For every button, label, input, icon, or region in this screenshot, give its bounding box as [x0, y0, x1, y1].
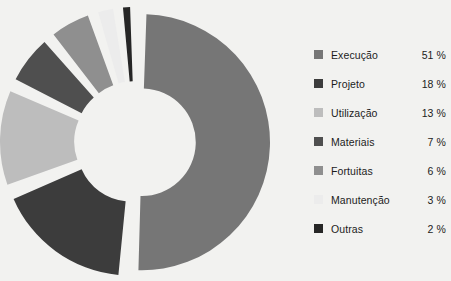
legend-item-label: Fortuitas — [331, 165, 412, 177]
legend-item-label: Utilização — [331, 107, 412, 119]
legend-item[interactable]: Execução51 % — [314, 40, 446, 69]
legend-item-value: 51 % — [412, 49, 446, 61]
legend-color-swatch — [314, 195, 323, 204]
legend-item[interactable]: Materiais7 % — [314, 127, 446, 156]
legend-item-value: 7 % — [412, 136, 446, 148]
legend-item-value: 13 % — [412, 107, 446, 119]
legend-color-swatch — [314, 79, 323, 88]
donut-chart-svg — [0, 0, 270, 281]
legend-item-label: Projeto — [331, 78, 412, 90]
legend-item-label: Outras — [331, 223, 412, 235]
donut-slice[interactable] — [123, 7, 133, 81]
legend-color-swatch — [314, 166, 323, 175]
legend-item-label: Materiais — [331, 136, 412, 148]
legend-item-value: 18 % — [412, 78, 446, 90]
donut-slice-group — [0, 7, 270, 275]
legend-color-swatch — [314, 108, 323, 117]
legend-item[interactable]: Fortuitas6 % — [314, 156, 446, 185]
legend-item[interactable]: Utilização13 % — [314, 98, 446, 127]
chart-page: Execução51 %Projeto18 %Utilização13 %Mat… — [0, 0, 451, 281]
legend-item-value: 6 % — [412, 165, 446, 177]
donut-chart — [0, 0, 270, 281]
legend-item-label: Manutenção — [331, 194, 412, 206]
legend-item-value: 3 % — [412, 194, 446, 206]
donut-slice[interactable] — [138, 14, 270, 270]
legend-item[interactable]: Outras2 % — [314, 214, 446, 243]
donut-slice[interactable] — [14, 169, 126, 275]
legend-color-swatch — [314, 50, 323, 59]
legend-item[interactable]: Manutenção3 % — [314, 185, 446, 214]
legend-item-value: 2 % — [412, 223, 446, 235]
legend-color-swatch — [314, 137, 323, 146]
legend-color-swatch — [314, 224, 323, 233]
chart-legend: Execução51 %Projeto18 %Utilização13 %Mat… — [314, 40, 446, 243]
legend-item-label: Execução — [331, 49, 412, 61]
legend-item[interactable]: Projeto18 % — [314, 69, 446, 98]
